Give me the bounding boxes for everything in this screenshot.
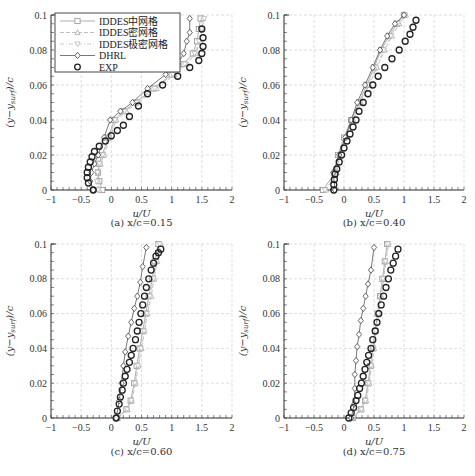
y-tick-label: 0.1 xyxy=(35,10,48,21)
circle-marker-icon xyxy=(410,24,416,30)
y-tick-label: 0 xyxy=(275,413,280,424)
circle-marker-icon xyxy=(395,246,401,252)
diamond-marker-icon xyxy=(126,333,131,339)
y-tick-label: 0.08 xyxy=(30,273,48,284)
x-tick-label: −1 xyxy=(46,422,57,433)
y-tick-label: 0.04 xyxy=(263,343,281,354)
diamond-marker-icon xyxy=(368,267,373,273)
chart-panel-a: −1−0.500.511.5200.020.040.060.080.1u/U(y… xyxy=(4,10,235,229)
circle-marker-icon xyxy=(347,131,353,137)
legend: IDDES中网格IDDES密网格IDDES极密网格DHRLEXP xyxy=(55,13,180,73)
circle-marker-icon xyxy=(413,17,419,23)
circle-marker-icon xyxy=(390,260,396,266)
diamond-marker-icon xyxy=(138,279,143,285)
y-tick-label: 0.06 xyxy=(30,308,48,319)
y-tick-label: 0.08 xyxy=(263,45,281,56)
y-tick-label: 0.06 xyxy=(30,80,48,91)
chart-panel-c: −1−0.500.511.5200.020.040.060.080.1u/U(y… xyxy=(4,239,235,458)
series-diamond xyxy=(331,12,407,193)
x-tick-label: 0 xyxy=(109,194,114,205)
y-tick-label: 0.1 xyxy=(268,239,281,250)
y-tick-label: 0.06 xyxy=(263,308,281,319)
diamond-marker-icon xyxy=(144,244,149,250)
circle-marker-icon xyxy=(375,73,381,79)
y-axis-label: (y−ysurf)/c xyxy=(237,305,250,356)
x-tick-label: 0 xyxy=(342,422,347,433)
circle-marker-icon xyxy=(140,302,146,308)
y-tick-label: 0.02 xyxy=(30,150,48,161)
legend-label: IDDES中网格 xyxy=(99,15,158,27)
y-axis-label: (y−ysurf)/c xyxy=(4,305,17,356)
y-axis-label: (y−ysurf)/c xyxy=(4,77,17,128)
x-tick-label: 1 xyxy=(169,422,174,433)
y-tick-label: 0 xyxy=(275,185,280,196)
x-tick-label: −1 xyxy=(46,194,57,205)
y-tick-label: 0.04 xyxy=(30,115,48,126)
x-tick-label: −0.5 xyxy=(72,194,90,205)
x-tick-label: 1.5 xyxy=(428,422,441,433)
x-tick-label: 1.5 xyxy=(196,422,209,433)
square-marker-icon xyxy=(75,18,80,23)
circle-marker-icon xyxy=(91,149,97,155)
circle-marker-icon xyxy=(365,91,371,97)
diamond-marker-icon xyxy=(371,244,376,250)
y-tick-label: 0.02 xyxy=(263,378,281,389)
circle-marker-icon xyxy=(389,56,395,62)
circle-marker-icon xyxy=(407,31,413,37)
y-tick-label: 0.02 xyxy=(263,150,281,161)
x-tick-label: −1 xyxy=(279,422,290,433)
legend-label: IDDES密网格 xyxy=(99,26,158,38)
x-tick-label: 0.5 xyxy=(135,194,148,205)
x-tick-label: 2 xyxy=(462,422,467,433)
y-tick-label: 0.1 xyxy=(268,10,281,21)
x-tick-label: 0 xyxy=(109,422,114,433)
x-tick-label: 1.5 xyxy=(196,194,209,205)
diamond-marker-icon xyxy=(184,38,189,44)
x-tick-label: 2 xyxy=(230,194,235,205)
circle-marker-icon xyxy=(196,58,202,64)
circle-marker-icon xyxy=(132,337,138,343)
x-tick-label: 1 xyxy=(169,194,174,205)
y-tick-label: 0 xyxy=(42,185,47,196)
y-tick-label: 0.1 xyxy=(35,239,48,250)
diamond-marker-icon xyxy=(353,357,358,363)
y-tick-label: 0.02 xyxy=(30,378,48,389)
circle-marker-icon xyxy=(114,128,120,134)
x-tick-label: 0.5 xyxy=(368,194,381,205)
series-circle xyxy=(113,246,164,421)
x-tick-label: 0.5 xyxy=(368,422,381,433)
x-tick-label: −0.5 xyxy=(72,422,90,433)
panel-caption: (c) x/c=0.60 xyxy=(111,446,173,457)
x-tick-label: 0 xyxy=(342,194,347,205)
diamond-marker-icon xyxy=(361,305,366,311)
diamond-marker-icon xyxy=(121,363,126,369)
legend-label: DHRL xyxy=(99,50,126,61)
figure: −1−0.500.511.5200.020.040.060.080.1u/U(y… xyxy=(0,0,475,476)
circle-marker-icon xyxy=(360,373,366,379)
circle-marker-icon xyxy=(126,114,132,120)
diamond-marker-icon xyxy=(140,263,145,269)
diamond-marker-icon xyxy=(135,293,140,299)
circle-marker-icon xyxy=(388,267,394,273)
y-tick-label: 0.06 xyxy=(263,80,281,91)
circle-marker-icon xyxy=(402,38,408,44)
y-tick-label: 0.04 xyxy=(263,115,281,126)
circle-marker-icon xyxy=(383,285,389,291)
circle-marker-icon xyxy=(382,65,388,71)
chart-panel-b: −1−0.500.511.5200.020.040.060.080.1u/U(y… xyxy=(237,10,467,229)
y-tick-label: 0.08 xyxy=(263,273,281,284)
y-tick-label: 0 xyxy=(42,413,47,424)
circle-marker-icon xyxy=(143,285,149,291)
circle-marker-icon xyxy=(136,319,142,325)
y-axis-label: (y−ysurf)/c xyxy=(237,77,250,128)
diamond-marker-icon xyxy=(355,343,360,349)
x-tick-label: 1 xyxy=(402,194,407,205)
circle-marker-icon xyxy=(366,352,372,358)
x-tick-label: −1 xyxy=(279,194,290,205)
series-triangle-down xyxy=(322,13,408,193)
diamond-marker-icon xyxy=(365,281,370,287)
x-tick-label: 2 xyxy=(230,422,235,433)
circle-marker-icon xyxy=(120,122,126,128)
circle-marker-icon xyxy=(119,387,125,393)
circle-marker-icon xyxy=(134,328,140,334)
